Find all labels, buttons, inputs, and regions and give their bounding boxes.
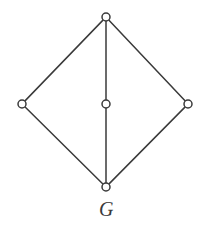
graph-vertex-top (102, 13, 110, 21)
graph-diagram (0, 0, 213, 227)
graph-vertex-left (18, 100, 26, 108)
graph-edge (25, 20, 103, 101)
graph-vertex-center (102, 100, 110, 108)
figure-container: G (0, 0, 213, 227)
graph-edge (25, 107, 103, 184)
figure-label: G (0, 198, 213, 220)
graph-vertex-right (184, 100, 192, 108)
graph-vertex-bottom (102, 183, 110, 191)
vertex-layer (18, 13, 192, 191)
graph-edge (109, 20, 186, 101)
graph-edge (109, 107, 185, 184)
